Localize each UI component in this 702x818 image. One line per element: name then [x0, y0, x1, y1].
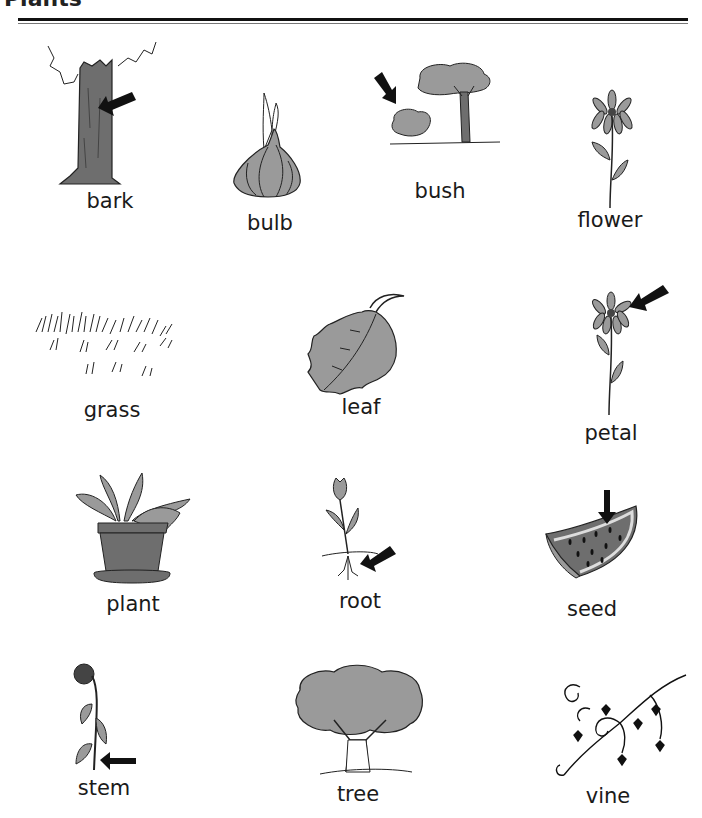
word-label-vine: vine	[586, 784, 631, 808]
vocab-card-petal	[585, 285, 685, 420]
seed-illustration-icon	[540, 490, 645, 585]
arrow-icon	[629, 285, 669, 311]
vocab-card-vine	[550, 665, 690, 790]
word-label-tree: tree	[337, 782, 379, 806]
title-rule-thin	[18, 23, 688, 24]
vine-illustration-icon	[550, 665, 690, 790]
grass-illustration-icon	[30, 310, 195, 390]
tree-illustration-icon	[290, 660, 430, 785]
vocab-card-root	[318, 470, 408, 585]
flower-illustration-icon	[580, 90, 650, 210]
vocab-card-seed	[540, 490, 645, 585]
word-label-seed: seed	[567, 597, 617, 621]
word-label-plant: plant	[106, 592, 160, 616]
word-label-bulb: bulb	[247, 211, 293, 235]
vocab-card-stem	[68, 660, 143, 775]
vocab-card-flower	[580, 90, 650, 210]
word-label-flower: flower	[578, 208, 643, 232]
word-label-bush: bush	[415, 179, 466, 203]
word-label-grass: grass	[84, 398, 141, 422]
leaf-illustration-icon	[300, 290, 415, 395]
vocab-card-plant	[72, 465, 197, 590]
arrow-icon	[374, 72, 396, 104]
vocab-card-leaf	[300, 290, 415, 395]
page-title: Plants	[4, 0, 82, 11]
word-label-stem: stem	[78, 776, 131, 800]
vocab-card-grass	[30, 310, 195, 390]
vocab-card-bush	[370, 58, 510, 176]
vocab-card-tree	[290, 660, 430, 785]
word-label-root: root	[339, 589, 381, 613]
bulb-illustration-icon	[228, 75, 308, 200]
vocab-card-bulb	[228, 75, 308, 200]
word-label-bark: bark	[87, 189, 134, 213]
bark-illustration-icon	[40, 38, 170, 188]
word-label-petal: petal	[584, 421, 637, 445]
title-rule	[18, 18, 688, 21]
bush-illustration-icon	[370, 58, 510, 176]
arrow-icon	[100, 752, 136, 770]
root-illustration-icon	[318, 470, 408, 585]
arrow-icon	[360, 546, 396, 572]
word-label-leaf: leaf	[341, 395, 380, 419]
petal-illustration-icon	[585, 285, 685, 420]
vocab-card-bark	[40, 38, 170, 188]
plant-illustration-icon	[72, 465, 197, 590]
stem-illustration-icon	[68, 660, 143, 775]
